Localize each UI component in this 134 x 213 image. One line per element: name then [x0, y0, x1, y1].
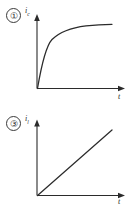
curve-exponential-saturating — [38, 24, 113, 88]
plot-area-3 — [0, 110, 134, 213]
panel-exponential-curve: ① ic t — [0, 2, 134, 105]
plot-area-1 — [0, 2, 134, 105]
x-axis-arrowhead-1 — [118, 86, 125, 92]
two-panel-current-time-figure: ① ic t ③ il t — [0, 0, 134, 213]
curve-linear-ramp — [38, 130, 113, 196]
y-axis-arrowhead-1 — [34, 14, 40, 21]
x-axis-arrowhead-3 — [118, 193, 125, 199]
y-axis-arrowhead-3 — [34, 120, 40, 127]
panel-linear-ramp: ③ il t — [0, 110, 134, 213]
